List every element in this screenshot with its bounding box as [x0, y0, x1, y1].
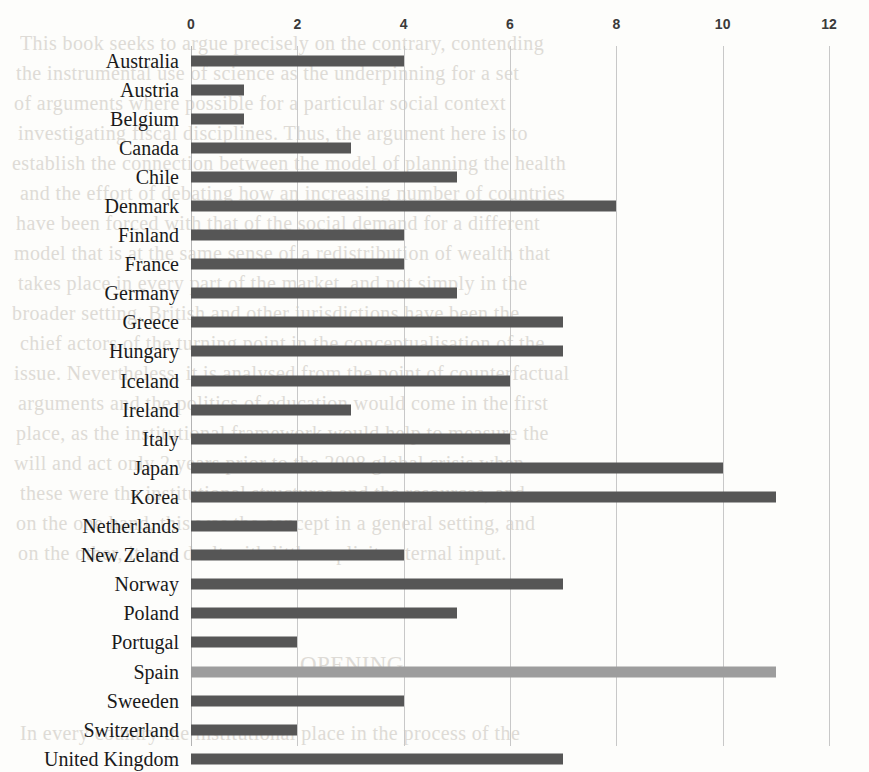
bar-track: [191, 250, 829, 279]
category-label-france: France: [0, 254, 179, 274]
x-tick-label-6: 6: [506, 16, 514, 32]
bar-track: [191, 482, 829, 511]
bar-track: [191, 279, 829, 308]
category-label-netherlands: Netherlands: [0, 516, 179, 536]
bar-track: [191, 46, 829, 75]
bar-row: Norway: [0, 570, 869, 599]
bar-track: [191, 191, 829, 220]
bar-row: Italy: [0, 424, 869, 453]
bar-track: [191, 453, 829, 482]
bar-portugal: [191, 637, 297, 648]
category-label-spain: Spain: [0, 662, 179, 682]
bar-row: Finland: [0, 221, 869, 250]
bar-germany: [191, 288, 457, 299]
bar-australia: [191, 55, 404, 66]
bar-track: [191, 686, 829, 715]
bar-track: [191, 424, 829, 453]
bar-track: [191, 75, 829, 104]
category-label-poland: Poland: [0, 603, 179, 623]
bar-row: Ireland: [0, 395, 869, 424]
category-label-hungary: Hungary: [0, 341, 179, 361]
bar-iceland: [191, 375, 510, 386]
bar-row: France: [0, 250, 869, 279]
category-label-belgium: Belgium: [0, 109, 179, 129]
bar-row: Spain: [0, 657, 869, 686]
bar-switzerland: [191, 724, 297, 735]
category-label-canada: Canada: [0, 138, 179, 158]
category-label-iceland: Iceland: [0, 371, 179, 391]
bar-row: Portugal: [0, 628, 869, 657]
bar-track: [191, 628, 829, 657]
category-label-austria: Austria: [0, 80, 179, 100]
bar-denmark: [191, 201, 616, 212]
bar-ireland: [191, 404, 351, 415]
bar-hungary: [191, 346, 563, 357]
bar-sweeden: [191, 695, 404, 706]
bar-norway: [191, 579, 563, 590]
bar-row: Poland: [0, 599, 869, 628]
x-tick-label-12: 12: [821, 16, 837, 32]
x-tick-label-10: 10: [715, 16, 731, 32]
x-tick-label-4: 4: [400, 16, 408, 32]
x-tick-label-8: 8: [612, 16, 620, 32]
bar-row: Belgium: [0, 104, 869, 133]
bar-canada: [191, 142, 351, 153]
bar-track: [191, 715, 829, 744]
bar-track: [191, 512, 829, 541]
bar-track: [191, 104, 829, 133]
bar-track: [191, 599, 829, 628]
bar-japan: [191, 462, 723, 473]
bar-poland: [191, 608, 457, 619]
bar-rows: AustraliaAustriaBelgiumCanadaChileDenmar…: [0, 46, 869, 772]
figure-page: This book seeks to argue precisely on th…: [0, 0, 869, 772]
bar-row: Netherlands: [0, 512, 869, 541]
category-label-korea: Korea: [0, 487, 179, 507]
category-label-finland: Finland: [0, 225, 179, 245]
bar-row: Canada: [0, 133, 869, 162]
bar-row: Korea: [0, 482, 869, 511]
bar-greece: [191, 317, 563, 328]
bar-austria: [191, 84, 244, 95]
bar-netherlands: [191, 521, 297, 532]
bar-track: [191, 744, 829, 772]
bar-track: [191, 366, 829, 395]
bar-row: Iceland: [0, 366, 869, 395]
bar-track: [191, 657, 829, 686]
horizontal-bar-chart: 024681012 AustraliaAustriaBelgiumCanadaC…: [0, 0, 869, 772]
bar-finland: [191, 230, 404, 241]
bar-row: Australia: [0, 46, 869, 75]
bar-track: [191, 395, 829, 424]
category-label-greece: Greece: [0, 312, 179, 332]
bar-row: Switzerland: [0, 715, 869, 744]
bar-track: [191, 133, 829, 162]
bar-track: [191, 162, 829, 191]
category-label-ireland: Ireland: [0, 400, 179, 420]
category-label-norway: Norway: [0, 574, 179, 594]
category-label-united-kingdom: United Kingdom: [0, 749, 179, 769]
bar-track: [191, 221, 829, 250]
category-label-denmark: Denmark: [0, 196, 179, 216]
bar-row: Austria: [0, 75, 869, 104]
bar-united-kingdom: [191, 753, 563, 764]
x-tick-label-2: 2: [293, 16, 301, 32]
category-label-portugal: Portugal: [0, 632, 179, 652]
bar-spain: [191, 666, 776, 677]
x-tick-label-0: 0: [187, 16, 195, 32]
bar-track: [191, 337, 829, 366]
bar-row: Chile: [0, 162, 869, 191]
category-label-switzerland: Switzerland: [0, 720, 179, 740]
bar-belgium: [191, 113, 244, 124]
bar-track: [191, 308, 829, 337]
bar-row: Germany: [0, 279, 869, 308]
category-label-germany: Germany: [0, 283, 179, 303]
bar-france: [191, 259, 404, 270]
bar-track: [191, 570, 829, 599]
bar-row: Japan: [0, 453, 869, 482]
bar-row: Denmark: [0, 191, 869, 220]
bar-row: United Kingdom: [0, 744, 869, 772]
bar-row: New Zeland: [0, 541, 869, 570]
category-label-japan: Japan: [0, 458, 179, 478]
category-label-chile: Chile: [0, 167, 179, 187]
category-label-new-zeland: New Zeland: [0, 545, 179, 565]
category-label-italy: Italy: [0, 429, 179, 449]
